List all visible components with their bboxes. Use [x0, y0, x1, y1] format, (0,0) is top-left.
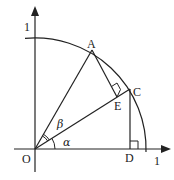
- y-axis-arrow-icon: [31, 6, 39, 16]
- point-e-label: E: [114, 99, 121, 113]
- x-unit-label: 1: [154, 154, 160, 168]
- point-d-label: D: [125, 151, 134, 165]
- point-a-label: A: [87, 37, 96, 51]
- segment-oa: [35, 50, 92, 149]
- origin-label: O: [22, 152, 31, 166]
- angle-beta-label: β: [56, 118, 63, 131]
- angle-alpha-arc: [52, 138, 55, 149]
- angle-alpha-label: α: [63, 136, 71, 149]
- point-c-label: C: [133, 85, 141, 99]
- segment-ae: [92, 50, 117, 97]
- x-axis-arrow-icon: [161, 145, 171, 153]
- y-unit-label: 1: [24, 20, 30, 34]
- unit-circle-diagram: 1 1 O A C E D β α: [0, 0, 174, 180]
- right-angle-mark-d: [130, 141, 138, 149]
